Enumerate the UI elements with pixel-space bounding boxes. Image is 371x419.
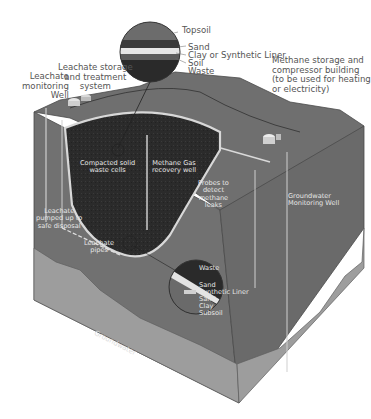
label-leachate-storage: Leachate storage and treatment system xyxy=(58,63,133,92)
label-liner-waste: Waste xyxy=(199,265,219,272)
label-leachate-pumped: Leachate pumped up to safe disposal xyxy=(36,208,82,230)
label-leachate-pipes: Leachate pipes xyxy=(84,240,114,255)
label-topsoil: Topsoil xyxy=(182,26,211,36)
label-methane-recovery-well: Methane Gas recovery well xyxy=(152,160,196,175)
label-probes: Probes to detect methane leaks xyxy=(198,180,229,210)
label-compacted-waste: Compacted solid waste cells xyxy=(80,160,135,175)
label-groundwater-monitoring-well: Groundwater Monitoring Well xyxy=(288,193,339,208)
label-liner-subsoil: Subsoil xyxy=(199,310,223,317)
label-methane-storage: Methane storage and compressor building … xyxy=(272,56,371,95)
label-cap-waste: Waste xyxy=(188,67,214,77)
